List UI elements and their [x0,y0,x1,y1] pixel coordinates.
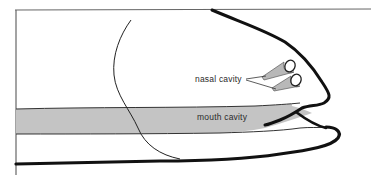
lip-junction [296,112,326,128]
gill-curve [114,20,180,159]
mouth-cavity-label: mouth cavity [197,112,247,122]
nasal-cavity-label: nasal cavity [195,74,242,84]
head-section-diagram [0,0,371,175]
frame-top-line [15,9,371,10]
diagram-canvas: nasal cavity mouth cavity [0,0,371,175]
nasal-leader-lower [246,80,276,89]
